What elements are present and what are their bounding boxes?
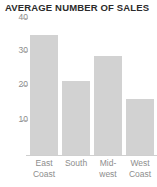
x-label-line: Mid- (92, 158, 124, 169)
x-label-line: Coast (28, 169, 60, 180)
bar-chart: AVERAGE NUMBER OF SALES 40 30 20 10 East… (0, 0, 157, 187)
bars-layer (30, 14, 157, 155)
bar-midwest[interactable] (94, 56, 122, 155)
bar-south[interactable] (62, 81, 90, 155)
y-tick-mark (22, 85, 28, 86)
x-label-line: West (124, 158, 156, 169)
x-label-line: South (60, 158, 92, 169)
x-label-midwest: Mid- west (92, 158, 124, 179)
x-axis-baseline (26, 155, 157, 156)
x-label-south: South (60, 158, 92, 169)
x-label-line: East (28, 158, 60, 169)
x-label-west-coast: West Coast (124, 158, 156, 179)
bar-west-coast[interactable] (126, 99, 154, 155)
bar-east-coast[interactable] (30, 35, 58, 155)
x-label-east-coast: East Coast (28, 158, 60, 179)
y-tick-mark (22, 120, 28, 121)
y-tick-mark (22, 51, 28, 52)
x-label-line: west (92, 169, 124, 180)
y-tick-mark (22, 18, 28, 19)
x-label-line: Coast (124, 169, 156, 180)
